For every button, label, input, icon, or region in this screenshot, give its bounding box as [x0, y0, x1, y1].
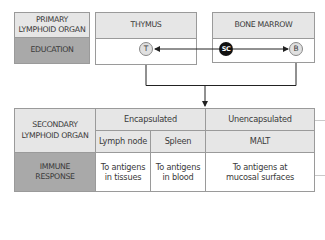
malt-response-line2: mucosal surfaces	[226, 172, 294, 183]
malt-response-line1: To antigens at	[233, 162, 288, 173]
lymph-node-response: To antigens in tissues	[96, 153, 151, 191]
encapsulated-label: Encapsulated	[124, 114, 177, 125]
lymph-node-cell: Lymph node	[96, 131, 151, 153]
spleen-response-line2: in blood	[162, 172, 193, 183]
malt-response: To antigens at mucosal surfaces	[206, 153, 314, 191]
secondary-lymphoid-table: SECONDARY LYMPHOID ORGAN Encapsulated Un…	[14, 108, 315, 192]
secondary-lymphoid-organ-label: SECONDARY LYMPHOID ORGAN	[15, 109, 96, 153]
t-cell-circle: T	[139, 42, 153, 56]
b-cell-label: B	[294, 44, 299, 55]
malt-cell: MALT	[206, 131, 314, 153]
immune-response-line2: RESPONSE	[35, 172, 74, 183]
lymph-node-response-line1: To antigens	[101, 162, 145, 173]
secondary-label-line1: SECONDARY	[32, 120, 77, 131]
t-cell-label: T	[144, 44, 148, 55]
stem-cell-circle: SC	[219, 42, 233, 56]
spleen-response: To antigens in blood	[151, 153, 206, 191]
encapsulated-header: Encapsulated	[96, 109, 206, 131]
lymph-node-response-line2: in tissues	[105, 172, 142, 183]
stem-cell-label: SC	[222, 44, 230, 55]
malt-label: MALT	[250, 136, 270, 147]
unencapsulated-header: Unencapsulated	[206, 109, 314, 131]
immune-response-line1: IMMUNE	[40, 162, 70, 173]
immune-response-label: IMMUNE RESPONSE	[15, 153, 96, 191]
b-cell-circle: B	[289, 42, 303, 56]
lymph-node-label: Lymph node	[99, 136, 147, 147]
secondary-label-line2: LYMPHOID ORGAN	[22, 131, 89, 142]
unencapsulated-label: Unencapsulated	[228, 114, 292, 125]
spleen-response-line1: To antigens	[156, 162, 200, 173]
spleen-cell: Spleen	[151, 131, 206, 153]
spleen-label: Spleen	[165, 136, 192, 147]
